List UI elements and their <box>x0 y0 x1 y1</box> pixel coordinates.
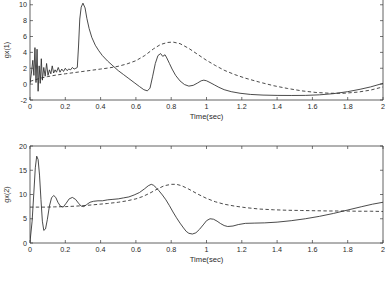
x-tick-label: 0.6 <box>131 245 141 254</box>
series-group-top <box>30 3 383 95</box>
y-tick-label: -2 <box>21 96 27 105</box>
y-tick-label: 20 <box>19 142 27 151</box>
x-tick-label: 0.4 <box>96 245 106 254</box>
x-tick-label: 0.2 <box>60 102 70 111</box>
x-tick-label: 1.2 <box>237 102 247 111</box>
x-tick-label: 1.8 <box>343 245 353 254</box>
x-tick-label: 1.8 <box>343 102 353 111</box>
x-tick-label: 1.4 <box>272 102 282 111</box>
x-tick-label: 0.8 <box>166 102 176 111</box>
chart-gx1: 00.20.40.60.811.21.41.61.82-20246810Time… <box>0 0 387 146</box>
y-tick-label: 10 <box>19 0 27 9</box>
figure-two-timeseries-plots: 00.20.40.60.811.21.41.61.82-20246810Time… <box>0 0 387 293</box>
chart-gx2: 00.20.40.60.811.21.41.61.8205101520Time(… <box>0 140 387 293</box>
x-tick-label: 0 <box>28 245 32 254</box>
y-tick-label: 2 <box>23 64 27 73</box>
x-tick-label: 1.6 <box>307 245 317 254</box>
y-tick-label: 5 <box>23 214 27 223</box>
x-tick-label: 0.6 <box>131 102 141 111</box>
x-tick-label: 0.8 <box>166 245 176 254</box>
x-tick-label: 2 <box>381 102 385 111</box>
axes-top <box>30 0 383 100</box>
y-tick-label: 8 <box>23 16 27 25</box>
series-bottom-dashed <box>30 184 383 211</box>
y-tick-label: 10 <box>19 190 27 199</box>
y-axis-bottom: 05101520 <box>19 142 383 248</box>
y-axis-top: -20246810 <box>19 0 383 104</box>
x-tick-label: 1 <box>205 245 209 254</box>
axes-bottom <box>30 146 383 243</box>
y-tick-label: 15 <box>19 166 27 175</box>
x-tick-label: 1 <box>205 102 209 111</box>
plot-area-top: 00.20.40.60.811.21.41.61.82-20246810Time… <box>0 0 387 146</box>
plot-area-bottom: 00.20.40.60.811.21.41.61.8205101520Time(… <box>0 140 387 293</box>
y-tick-label: 0 <box>23 80 27 89</box>
x-tick-label: 1.6 <box>307 102 317 111</box>
x-tick-label: 0 <box>28 102 32 111</box>
x-axis-bottom: 00.20.40.60.811.21.41.61.82 <box>28 146 385 254</box>
y-axis-label: gx(1) <box>2 42 11 58</box>
y-axis-label: gx(2) <box>2 186 11 202</box>
y-tick-label: 0 <box>23 239 27 248</box>
x-tick-label: 1.2 <box>237 245 247 254</box>
series-bottom-solid <box>30 156 383 242</box>
series-top-dashed <box>30 42 383 93</box>
x-axis-top: 00.20.40.60.811.21.41.61.82 <box>28 97 385 111</box>
series-top-solid <box>30 3 383 95</box>
x-axis-label: Time(sec) <box>190 112 224 121</box>
x-tick-label: 0.2 <box>60 245 70 254</box>
x-tick-label: 0.4 <box>96 102 106 111</box>
x-tick-label: 1.4 <box>272 245 282 254</box>
x-axis-label: Time(sec) <box>190 255 224 264</box>
x-tick-label: 2 <box>381 245 385 254</box>
y-tick-label: 4 <box>23 48 27 57</box>
series-group-bottom <box>30 156 383 242</box>
y-tick-label: 6 <box>23 32 27 41</box>
